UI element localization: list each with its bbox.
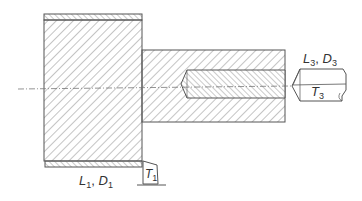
label-d3-letter: D — [322, 51, 331, 66]
drilled-bore — [181, 70, 285, 98]
label-l1-d1: L1, D1 — [79, 174, 113, 190]
label-d3-subscript: 3 — [332, 58, 337, 68]
label-t1: T1 — [145, 168, 157, 183]
label-t1-subscript: 1 — [152, 173, 157, 183]
large-cylinder — [44, 14, 142, 167]
machining-diagram — [0, 0, 362, 201]
label-d1-subscript: 1 — [108, 180, 113, 190]
label-t3-subscript: 3 — [319, 91, 324, 101]
label-d1-letter: D — [98, 173, 107, 188]
label-l3-d3: L3, D3 — [303, 52, 337, 68]
label-t3: T3 — [311, 85, 324, 101]
bottom-layer — [45, 161, 142, 167]
label-t3-letter: T — [311, 84, 319, 99]
top-layer — [44, 14, 142, 20]
